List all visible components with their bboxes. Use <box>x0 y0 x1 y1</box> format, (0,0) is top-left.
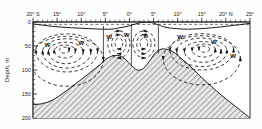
cross-section-plot: 20° S15°10°5°0°5°10°15°20° N25° 05010015… <box>0 0 262 129</box>
x-tick-label: 15° <box>198 11 206 17</box>
cell-label: W <box>230 52 236 59</box>
x-axis-tick-labels: 20° S15°10°5°0°5°10°15°20° N25° <box>26 11 254 17</box>
cell-label: W <box>45 41 51 48</box>
cell-label: W <box>106 33 112 40</box>
cell-label: W <box>177 33 183 40</box>
y-tick-label: 200 <box>22 115 31 121</box>
y-tick-label: 0 <box>28 19 31 25</box>
cell-label: E <box>144 32 148 39</box>
streamline-arrowhead <box>29 57 32 62</box>
x-tick-label: 25° <box>246 11 254 17</box>
y-axis-label: Depth, m <box>4 58 10 82</box>
x-tick-label: 5° <box>103 11 108 17</box>
x-tick-label: 5° <box>151 11 156 17</box>
x-tick-label: 15° <box>53 11 61 17</box>
cell-label: W <box>124 31 130 38</box>
cell-label: W <box>211 38 217 45</box>
y-axis-tick-labels: 050100150200 <box>22 19 31 121</box>
y-tick-label: 150 <box>22 91 31 97</box>
x-tick-label: 10° <box>77 11 85 17</box>
y-tick-label: 50 <box>25 43 31 49</box>
x-tick-label: 10° <box>174 11 182 17</box>
x-tick-label: 0° <box>127 11 132 17</box>
x-tick-label: 20° N <box>219 11 233 17</box>
ocean-cross-section-figure: 20° S15°10°5°0°5°10°15°20° N25° 05010015… <box>0 0 262 129</box>
y-tick-label: 100 <box>22 67 31 73</box>
cell-label: W <box>78 39 84 46</box>
top-axis <box>33 18 250 22</box>
x-tick-label: 20° S <box>26 11 40 17</box>
